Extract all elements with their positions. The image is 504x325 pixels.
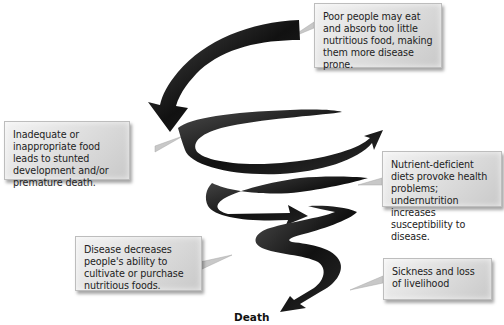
callout-sickness-loss: Sickness and loss of livelihood bbox=[383, 258, 492, 300]
callout-nutrient-deficient: Nutrient-deficient diets provoke health … bbox=[382, 151, 502, 207]
callout-text: Poor people may eat and absorb too littl… bbox=[323, 11, 433, 70]
callout-poor-people: Poor people may eat and absorb too littl… bbox=[314, 3, 442, 68]
callout-text: Sickness and loss of livelihood bbox=[392, 266, 475, 289]
callout-disease-decreases: Disease decreases people's ability to cu… bbox=[75, 236, 202, 291]
spiral-band-1 bbox=[178, 110, 383, 175]
callout-text: Disease decreases people's ability to cu… bbox=[84, 244, 184, 291]
callout-inadequate-food: Inadequate or inappropriate food leads t… bbox=[4, 121, 130, 180]
spiral-band-3 bbox=[256, 206, 357, 312]
callout-text: Inadequate or inappropriate food leads t… bbox=[13, 129, 109, 188]
terminal-label-death: Death bbox=[234, 311, 269, 323]
